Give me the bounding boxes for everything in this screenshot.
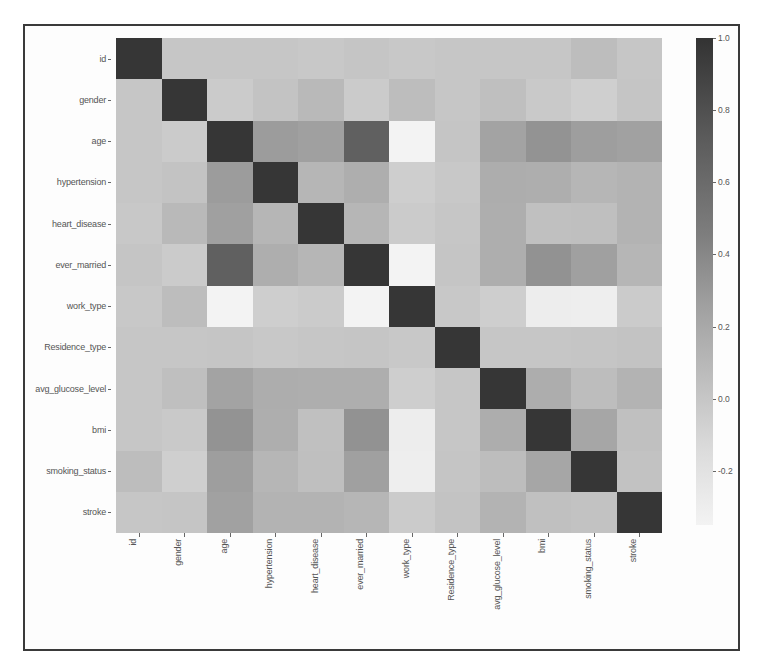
x-tick-mark <box>275 533 276 537</box>
heatmap-cell <box>571 368 617 409</box>
x-tick-label: gender <box>173 539 183 566</box>
heatmap-cell <box>617 121 663 162</box>
heatmap-cell <box>435 203 481 244</box>
heatmap-cell <box>253 121 299 162</box>
heatmap-cell <box>389 327 435 368</box>
heatmap-cell <box>617 327 663 368</box>
heatmap-cell <box>617 79 663 120</box>
heatmap-cell <box>253 203 299 244</box>
colorbar-tick-label: 0.2 <box>713 322 730 332</box>
heatmap-cell <box>617 38 663 79</box>
heatmap-cell <box>617 162 663 203</box>
heatmap-cell <box>480 368 526 409</box>
heatmap-cell <box>344 38 390 79</box>
x-tick-mark <box>639 533 640 537</box>
heatmap-cell <box>344 203 390 244</box>
heatmap-cell <box>526 409 572 450</box>
heatmap-cell <box>298 368 344 409</box>
heatmap-cell <box>298 492 344 533</box>
heatmap-cell <box>162 79 208 120</box>
heatmap-cell <box>435 327 481 368</box>
heatmap-cell <box>298 38 344 79</box>
heatmap-cell <box>571 38 617 79</box>
heatmap-cell <box>617 368 663 409</box>
heatmap-cell <box>116 244 162 285</box>
heatmap-cell <box>480 121 526 162</box>
heatmap-cell <box>253 492 299 533</box>
x-tick-label: heart_disease <box>310 539 320 593</box>
y-tick-label: work_type <box>67 301 111 311</box>
heatmap-cell <box>526 203 572 244</box>
x-tick-label: hypertension <box>264 539 274 588</box>
heatmap-cell <box>344 327 390 368</box>
x-tick-mark <box>594 533 595 537</box>
heatmap-cell <box>116 79 162 120</box>
x-tick-mark <box>321 533 322 537</box>
heatmap-cell <box>526 79 572 120</box>
heatmap-cell <box>571 203 617 244</box>
heatmap-cell <box>162 203 208 244</box>
heatmap-cell <box>207 327 253 368</box>
heatmap-cell <box>389 409 435 450</box>
colorbar-tick-label: -0.2 <box>713 466 733 476</box>
heatmap-cell <box>207 451 253 492</box>
x-tick-label: id <box>128 539 138 546</box>
heatmap-cell <box>298 244 344 285</box>
x-tick-label: age <box>219 539 229 553</box>
heatmap-cell <box>526 286 572 327</box>
x-axis-labels: idgenderagehypertensionheart_diseaseever… <box>116 533 662 643</box>
heatmap-cell <box>480 492 526 533</box>
heatmap-cell <box>253 327 299 368</box>
heatmap-cell <box>298 162 344 203</box>
y-tick-label: avg_glucose_level <box>35 384 111 394</box>
heatmap-cell <box>435 38 481 79</box>
heatmap-cell <box>344 244 390 285</box>
heatmap-cell <box>526 38 572 79</box>
heatmap-cell <box>571 451 617 492</box>
heatmap-cell <box>162 38 208 79</box>
heatmap-cell <box>344 409 390 450</box>
heatmap-cell <box>162 121 208 162</box>
heatmap-cell <box>116 121 162 162</box>
heatmap-cell <box>480 409 526 450</box>
heatmap-cell <box>298 286 344 327</box>
heatmap-cell <box>207 368 253 409</box>
heatmap-cell <box>344 368 390 409</box>
heatmap-cell <box>344 121 390 162</box>
heatmap-cell <box>389 368 435 409</box>
colorbar-tick-label: 0.6 <box>713 177 730 187</box>
x-tick-label: stroke <box>628 539 638 562</box>
heatmap-cell <box>253 451 299 492</box>
x-tick-label: smoking_status <box>583 539 593 599</box>
heatmap-cell <box>116 492 162 533</box>
heatmap-cell <box>116 327 162 368</box>
heatmap-cell <box>207 203 253 244</box>
heatmap-cell <box>298 327 344 368</box>
heatmap-cell <box>435 121 481 162</box>
x-tick-label: bmi <box>537 539 547 553</box>
heatmap-cell <box>162 368 208 409</box>
y-tick-label: Residence_type <box>44 342 111 352</box>
heatmap-cell <box>298 203 344 244</box>
heatmap-cell <box>435 162 481 203</box>
heatmap-cell <box>480 244 526 285</box>
heatmap-cell <box>207 244 253 285</box>
colorbar <box>696 38 713 525</box>
heatmap-cell <box>298 409 344 450</box>
y-tick-label: heart_disease <box>52 219 111 229</box>
heatmap-cell <box>617 203 663 244</box>
heatmap-cell <box>162 244 208 285</box>
heatmap-cell <box>162 451 208 492</box>
heatmap-cell <box>571 121 617 162</box>
x-tick-mark <box>230 533 231 537</box>
heatmap-cell <box>253 38 299 79</box>
heatmap-cell <box>344 79 390 120</box>
heatmap-cell <box>298 451 344 492</box>
heatmap-cell <box>480 451 526 492</box>
heatmap-cell <box>480 38 526 79</box>
y-tick-label: id <box>99 54 111 64</box>
heatmap-cell <box>571 79 617 120</box>
colorbar-tick-label: 0.4 <box>713 249 730 259</box>
heatmap-cell <box>162 286 208 327</box>
x-tick-label: Residence_type <box>446 539 456 601</box>
